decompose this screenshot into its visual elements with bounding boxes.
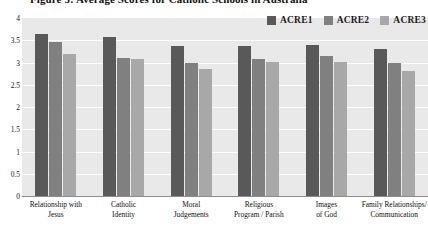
bar-group xyxy=(157,18,225,196)
y-axis-tick-label: 4 xyxy=(0,14,20,23)
bar-acre3 xyxy=(63,54,76,196)
y-axis-tick-label: 0 xyxy=(0,192,20,201)
bar-groups xyxy=(22,18,428,196)
bar-acre1 xyxy=(35,34,48,196)
x-axis-category-line: Judgements xyxy=(158,210,224,220)
bar-acre3 xyxy=(266,62,279,196)
legend-acre1[interactable]: ACRE1 xyxy=(267,15,313,25)
y-axis: 43.532.521.510.50 xyxy=(0,18,20,196)
figure-caption: Figure 5: Average Scores for Catholic Sc… xyxy=(30,0,410,5)
x-axis-category-line: Images xyxy=(294,200,360,210)
bar-acre2 xyxy=(185,63,198,197)
x-axis-category-line: Identity xyxy=(91,210,157,220)
legend-label: ACRE2 xyxy=(337,15,370,25)
bar-group xyxy=(90,18,158,196)
x-axis-category-line: Program / Parish xyxy=(226,210,292,220)
bar-acre2 xyxy=(320,56,333,196)
bar-acre1 xyxy=(238,46,251,196)
legend-label: ACRE1 xyxy=(280,15,313,25)
bar-acre2 xyxy=(388,63,401,196)
y-axis-tick-label: 2 xyxy=(0,103,20,112)
chart-figure: Figure 5: Average Scores for Catholic Sc… xyxy=(0,0,428,236)
x-axis-category-line: of God xyxy=(294,210,360,220)
legend-acre3[interactable]: ACRE3 xyxy=(380,15,426,25)
legend-label: ACRE3 xyxy=(393,15,426,25)
bar-acre3 xyxy=(131,59,144,196)
x-axis-category-line: Catholic xyxy=(91,200,157,210)
y-axis-tick-label: 3 xyxy=(0,58,20,67)
x-axis-category-label: Family Relationships/Communication xyxy=(360,200,428,220)
x-axis-category-label: MoralJudgements xyxy=(157,200,225,220)
bar-acre2 xyxy=(117,58,130,196)
x-axis-category-label: CatholicIdentity xyxy=(90,200,158,220)
legend-swatch-icon xyxy=(324,16,333,25)
x-axis-category-label: Imagesof God xyxy=(293,200,361,220)
y-axis-tick-label: 1.5 xyxy=(0,125,20,134)
bar-group xyxy=(293,18,361,196)
x-axis-labels: Relationship withJesusCatholicIdentityMo… xyxy=(22,200,428,220)
bar-acre3 xyxy=(334,62,347,196)
x-axis-category-line: Moral xyxy=(158,200,224,210)
y-axis-tick-label: 0.5 xyxy=(0,169,20,178)
x-axis-category-line: Relationship with xyxy=(23,200,89,210)
bar-acre3 xyxy=(199,69,212,196)
bar-group xyxy=(225,18,293,196)
bar-acre2 xyxy=(49,42,62,196)
x-axis-category-line: Communication xyxy=(361,210,427,220)
bar-acre2 xyxy=(252,59,265,196)
x-axis-category-line: Family Relationships/ xyxy=(361,200,427,210)
legend-swatch-icon xyxy=(380,16,389,25)
chart-legend: ACRE1ACRE2ACRE3 xyxy=(267,15,426,25)
bar-acre1 xyxy=(306,45,319,196)
bar-acre3 xyxy=(402,71,415,196)
y-axis-tick-label: 3.5 xyxy=(0,36,20,45)
bar-acre1 xyxy=(171,46,184,196)
x-axis-line xyxy=(22,196,428,197)
y-axis-tick-label: 1 xyxy=(0,147,20,156)
legend-swatch-icon xyxy=(267,16,276,25)
y-axis-tick-label: 2.5 xyxy=(0,80,20,89)
x-axis-category-line: Religious xyxy=(226,200,292,210)
bar-acre1 xyxy=(103,37,116,196)
legend-acre2[interactable]: ACRE2 xyxy=(324,15,370,25)
x-axis-category-line: Jesus xyxy=(23,210,89,220)
x-axis-category-label: ReligiousProgram / Parish xyxy=(225,200,293,220)
bar-acre1 xyxy=(374,49,387,196)
bar-group xyxy=(360,18,428,196)
x-axis-category-label: Relationship withJesus xyxy=(22,200,90,220)
bar-group xyxy=(22,18,90,196)
